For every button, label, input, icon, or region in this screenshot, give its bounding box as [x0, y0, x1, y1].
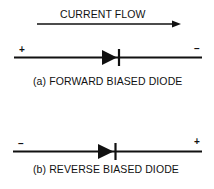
diode-b-anode-triangle: [98, 144, 114, 159]
reverse-biased-circuit: [13, 143, 202, 160]
current-flow-label: CURRENT FLOW: [60, 8, 146, 20]
caption-forward-biased: (a) FORWARD BIASED DIODE: [33, 75, 182, 87]
terminal-b-right: +: [194, 137, 200, 147]
caption-reverse-biased: (b) REVERSE BIASED DIODE: [33, 163, 179, 175]
terminal-a-right: –: [194, 44, 200, 54]
current-flow-arrow: [37, 21, 181, 28]
terminal-a-left: +: [19, 45, 25, 55]
diagram-canvas: [0, 0, 214, 189]
forward-biased-circuit: [14, 49, 202, 66]
terminal-b-left: –: [18, 139, 24, 149]
diode-a-anode-triangle: [102, 50, 117, 65]
